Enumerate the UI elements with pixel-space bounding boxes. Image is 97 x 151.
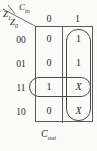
kmap-cell-10-1: X xyxy=(63,99,94,123)
kmap-cell-11-0: 1 xyxy=(36,75,62,99)
kmap-cell-01-0: 0 xyxy=(36,51,62,75)
row-header-11: 11 xyxy=(8,76,34,100)
kmap-grid: 0 1 0 1 1 X 0 X xyxy=(35,26,93,122)
row-header-01: 01 xyxy=(8,52,34,76)
column-header-1: 1 xyxy=(62,13,93,25)
column-variable-label: Cin xyxy=(19,3,30,14)
kmap-cell-11-1: X xyxy=(63,75,94,99)
figure-caption: Cout xyxy=(0,128,97,141)
kmap-cell-00-0: 0 xyxy=(36,27,62,51)
kmap-cell-01-1: 1 xyxy=(63,51,94,75)
column-header-0: 0 xyxy=(36,13,62,25)
row-header-10: 10 xyxy=(8,100,34,124)
karnaugh-map-figure: Cin Z1 Z0 0 1 00 01 11 10 0 1 0 1 1 X 0 … xyxy=(0,0,97,151)
kmap-cell-00-1: 1 xyxy=(63,27,94,51)
row-header-00: 00 xyxy=(8,28,34,52)
kmap-cell-10-0: 0 xyxy=(36,99,62,123)
kmap-corner-header: Cin Z1 Z0 xyxy=(2,2,36,28)
